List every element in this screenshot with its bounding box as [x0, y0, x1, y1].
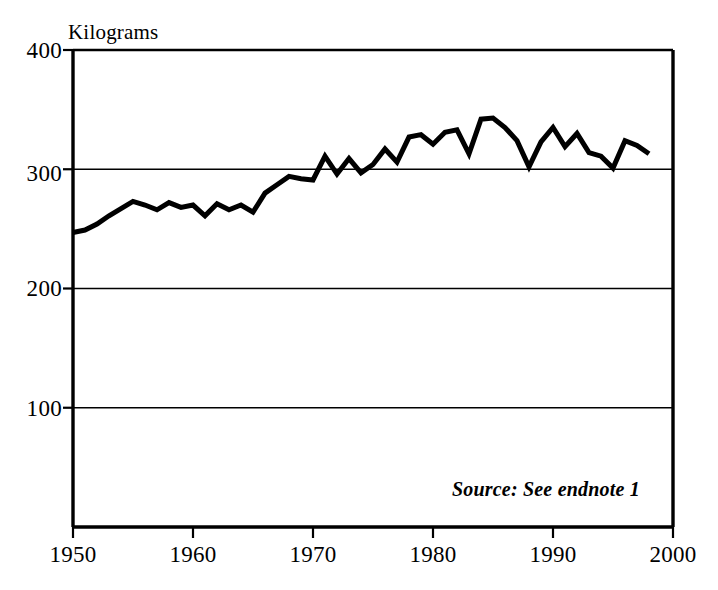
gridlines-group: [73, 50, 673, 408]
data-series-line: [73, 118, 649, 232]
x-tick-label-1960: 1960: [148, 543, 238, 566]
x-tick-label-1980: 1980: [388, 543, 478, 566]
x-tick-label-1990: 1990: [508, 543, 598, 566]
x-tick-label-1970: 1970: [268, 543, 358, 566]
y-axis-unit-label: Kilograms: [68, 20, 158, 44]
chart-figure: Kilograms 400 300 200 100 1950 1960 1970…: [0, 0, 718, 590]
x-tick-label-2000: 2000: [628, 543, 718, 566]
y-tick-label-100: 100: [0, 397, 62, 420]
source-annotation: Source: See endnote 1: [452, 478, 640, 501]
y-tick-label-300: 300: [0, 162, 62, 185]
x-tick-label-1950: 1950: [28, 543, 118, 566]
y-tick-label-400: 400: [0, 39, 62, 62]
axis-ticks-group: [63, 50, 673, 538]
plot-canvas: [0, 0, 718, 590]
y-tick-label-200: 200: [0, 277, 62, 300]
